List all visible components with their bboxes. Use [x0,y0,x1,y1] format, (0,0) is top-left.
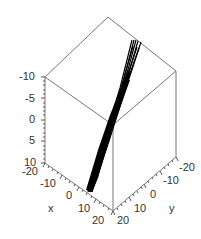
x-tick-label: 10 [78,203,90,214]
y-tick-label: 0 [150,189,156,200]
z-tick-label: -5 [25,93,35,104]
y-tick-label: 10 [134,203,146,214]
z-tick-label: 0 [29,114,35,125]
z-tick-label: 5 [29,135,35,146]
x-tick-label: -10 [40,178,56,189]
z-tick-label: -10 [19,71,35,82]
z-axis-ticks [41,77,45,163]
x-axis-label: x [48,202,54,214]
curve-bundle-fill [86,80,130,192]
x-tick-label: 20 [92,215,104,226]
y-tick-label: -20 [179,162,195,173]
y-axis-label: y [169,202,175,214]
y-tick-label: 20 [117,215,129,226]
y-tick-label: -10 [163,175,179,186]
x-tick-label: -20 [22,166,38,177]
x-tick-label: 0 [66,190,72,201]
